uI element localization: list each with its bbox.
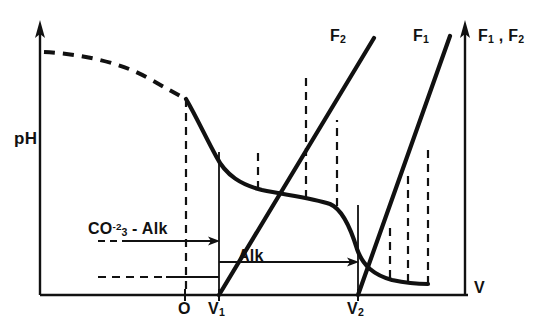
alk-arrow	[98, 258, 359, 278]
f1-gran-line	[358, 36, 450, 295]
v-axis-label: V	[474, 279, 485, 297]
f1-curve-label: F1	[413, 27, 429, 45]
v2-subscript: 2	[358, 306, 364, 318]
right-axis-separator: ,	[494, 27, 508, 44]
ph-axis-label: pH	[14, 129, 37, 149]
f2-curve-label: F2	[330, 27, 346, 45]
v1-subscript: 1	[219, 306, 225, 318]
gran-titration-diagram	[0, 0, 539, 333]
ph-curve-dashed	[44, 52, 186, 99]
right-axis-f2: F	[508, 27, 518, 44]
v2-tick-label: V2	[347, 300, 364, 318]
co3-text-prefix: CO	[88, 220, 113, 237]
f2-subscript: 2	[340, 33, 346, 45]
right-axis-f1: F	[478, 27, 488, 44]
v1-tick-label: V1	[208, 300, 225, 318]
alkalinity-label: Alk	[238, 247, 264, 265]
co3-text-suffix: - Alk	[127, 220, 167, 237]
f2-letter: F	[330, 27, 340, 44]
v2-letter: V	[347, 300, 358, 317]
v1-letter: V	[208, 300, 219, 317]
f1-letter: F	[413, 27, 423, 44]
f1-subscript: 1	[423, 33, 429, 45]
right-axis-f2-sub: 2	[518, 33, 524, 45]
origin-tick-label: O	[178, 300, 191, 318]
right-axis-label: F1 , F2	[478, 27, 524, 45]
carbonate-alkalinity-label: CO-23 - Alk	[88, 220, 168, 238]
